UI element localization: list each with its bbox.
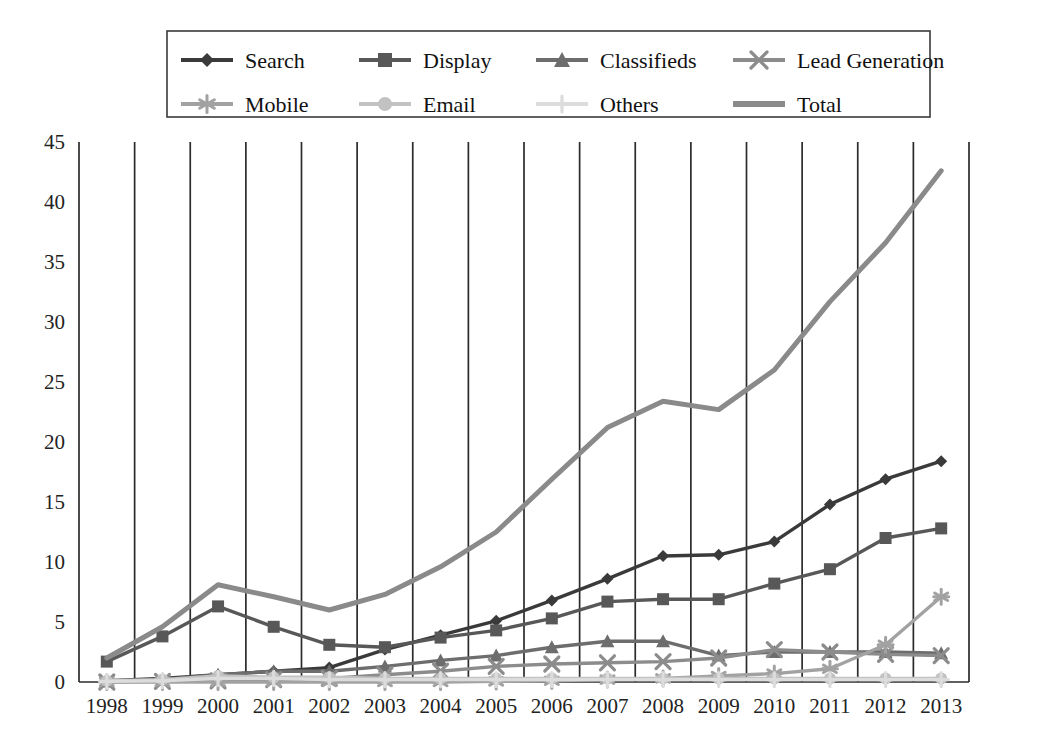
y-tick-label-30: 30 <box>44 310 65 334</box>
data-point-marker <box>657 550 669 562</box>
legend-label-lead-generation: Lead Generation <box>797 48 944 73</box>
data-point-marker <box>713 549 725 561</box>
x-tick-label-2000: 2000 <box>197 694 239 718</box>
data-point-marker <box>768 578 780 590</box>
data-point-marker <box>934 673 948 687</box>
x-tick-label-2008: 2008 <box>642 694 684 718</box>
x-tick-label-2006: 2006 <box>531 694 573 718</box>
data-point-marker <box>546 612 558 624</box>
x-tick-label-1998: 1998 <box>86 694 128 718</box>
x-tick-label-2007: 2007 <box>586 694 628 718</box>
chart-legend: SearchDisplayClassifiedsLead GenerationM… <box>167 31 944 117</box>
data-point-marker <box>156 630 168 642</box>
line-chart: 051015202530354045 199819992000200120022… <box>0 0 1045 749</box>
data-point-marker <box>490 624 502 636</box>
legend-label-total: Total <box>797 92 842 117</box>
chart-container: 051015202530354045 199819992000200120022… <box>0 0 1045 749</box>
x-tick-label-2009: 2009 <box>698 694 740 718</box>
x-tick-label-1999: 1999 <box>141 694 183 718</box>
y-tick-label-20: 20 <box>44 430 65 454</box>
data-point-marker <box>601 596 613 608</box>
y-tick-label-10: 10 <box>44 550 65 574</box>
data-point-marker <box>212 600 224 612</box>
legend-label-classifieds: Classifieds <box>600 48 697 73</box>
data-point-marker <box>935 522 947 534</box>
data-point-marker <box>600 673 614 687</box>
y-tick-label-0: 0 <box>55 670 66 694</box>
y-tick-label-5: 5 <box>55 610 66 634</box>
y-tick-label-15: 15 <box>44 490 65 514</box>
data-point-marker <box>880 532 892 544</box>
x-tick-label-2013: 2013 <box>920 694 962 718</box>
x-tick-label-2005: 2005 <box>475 694 517 718</box>
data-point-marker <box>546 594 558 606</box>
legend-label-mobile: Mobile <box>245 92 309 117</box>
data-point-marker <box>935 455 947 467</box>
x-tick-label-2003: 2003 <box>364 694 406 718</box>
data-point-marker <box>824 563 836 575</box>
y-tick-label-45: 45 <box>44 130 65 154</box>
x-tick-label-2001: 2001 <box>253 694 295 718</box>
legend-label-others: Others <box>600 92 659 117</box>
x-tick-label-2004: 2004 <box>420 694 463 718</box>
data-point-marker <box>713 593 725 605</box>
x-tick-label-2011: 2011 <box>809 694 850 718</box>
y-tick-label-25: 25 <box>44 370 65 394</box>
x-axis-tick-labels: 1998199920002001200220032004200520062007… <box>86 694 962 718</box>
data-point-marker <box>378 53 392 67</box>
data-point-marker <box>323 639 335 651</box>
legend-label-search: Search <box>245 48 305 73</box>
data-point-marker <box>268 621 280 633</box>
data-point-marker <box>879 673 893 687</box>
x-tick-label-2010: 2010 <box>753 694 795 718</box>
legend-label-email: Email <box>423 92 476 117</box>
y-tick-label-40: 40 <box>44 190 65 214</box>
data-point-marker <box>601 573 613 585</box>
x-tick-label-2012: 2012 <box>865 694 907 718</box>
x-tick-label-2002: 2002 <box>308 694 350 718</box>
legend-label-display: Display <box>423 48 491 73</box>
data-point-marker <box>379 641 391 653</box>
data-point-marker <box>880 473 892 485</box>
y-tick-label-35: 35 <box>44 250 65 274</box>
data-point-marker <box>657 593 669 605</box>
data-point-marker <box>378 97 392 111</box>
y-axis-tick-labels: 051015202530354045 <box>44 130 65 694</box>
data-point-marker <box>435 632 447 644</box>
data-point-marker <box>823 673 837 687</box>
